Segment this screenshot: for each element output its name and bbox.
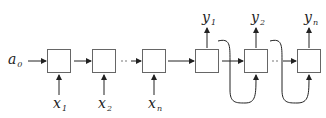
- encoder-cell-2: [93, 50, 116, 73]
- label-xn: xn: [148, 96, 161, 110]
- encoder-cell-1: [48, 50, 71, 73]
- diagram-graphics: [0, 0, 326, 118]
- encoder-cell-n: [143, 50, 166, 73]
- decoder-cell-1: [196, 50, 219, 73]
- rnn-diagram: a0 x1 x2 xn y1 y2 yn: [0, 0, 326, 118]
- label-x1: x1: [53, 96, 66, 110]
- label-y2: y2: [251, 10, 264, 24]
- label-y1: y1: [202, 10, 215, 24]
- decoder-cell-2: [245, 50, 268, 73]
- label-x2: x2: [98, 96, 111, 110]
- label-a0: a0: [8, 52, 21, 66]
- decoder-cell-n: [298, 50, 321, 73]
- label-yn: yn: [304, 10, 317, 24]
